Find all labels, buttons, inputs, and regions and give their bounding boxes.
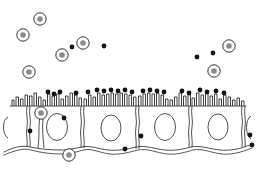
small-particle	[148, 88, 153, 93]
large-particle	[77, 37, 89, 49]
small-particle	[102, 44, 107, 49]
large-particle-internalized	[35, 107, 47, 119]
large-particle	[223, 40, 235, 52]
small-particle	[198, 88, 203, 93]
small-particle	[130, 90, 135, 95]
small-particle	[123, 88, 128, 93]
small-particle-group-intracellular	[28, 116, 255, 152]
small-particle	[95, 88, 100, 93]
large-particle-basolateral	[63, 149, 75, 161]
small-particle	[70, 45, 75, 50]
epithelium-diagram: Intestinal epithelium with nanoparticle …	[0, 0, 256, 171]
small-particle	[52, 92, 57, 97]
small-particle	[214, 89, 219, 94]
small-particle	[62, 116, 67, 121]
small-particle	[180, 89, 185, 94]
small-particle	[162, 90, 167, 95]
small-particle	[139, 134, 144, 139]
large-particle	[208, 65, 220, 77]
small-particle	[155, 89, 160, 94]
small-particle	[116, 89, 121, 94]
nucleus	[101, 115, 121, 141]
small-particle	[58, 90, 63, 95]
nucleus	[208, 114, 228, 140]
large-particle	[56, 49, 68, 61]
large-particle	[34, 13, 46, 25]
small-particle	[28, 129, 33, 134]
small-particle	[222, 91, 227, 96]
small-particle	[46, 90, 51, 95]
large-particle-group	[17, 13, 235, 161]
small-particle	[195, 55, 200, 60]
large-particle	[17, 29, 29, 41]
small-particle	[205, 90, 210, 95]
basement-membrane	[4, 145, 252, 155]
small-particle	[211, 51, 216, 56]
small-particle-group-lumen	[70, 44, 216, 60]
small-particle	[74, 91, 79, 96]
small-particle	[248, 133, 253, 138]
transcytosis-channel	[38, 119, 44, 148]
small-particle	[187, 91, 192, 96]
small-particle	[250, 143, 255, 148]
small-particle	[86, 90, 91, 95]
small-particle	[123, 147, 128, 152]
nucleus	[155, 114, 176, 141]
brush-border-microvilli	[12, 93, 244, 106]
small-particle	[109, 88, 114, 93]
epithelium-figure-svg	[0, 0, 256, 171]
lateral-cell-borders	[27, 106, 246, 149]
small-particle	[141, 89, 146, 94]
small-particle	[102, 89, 107, 94]
large-particle	[23, 66, 35, 78]
